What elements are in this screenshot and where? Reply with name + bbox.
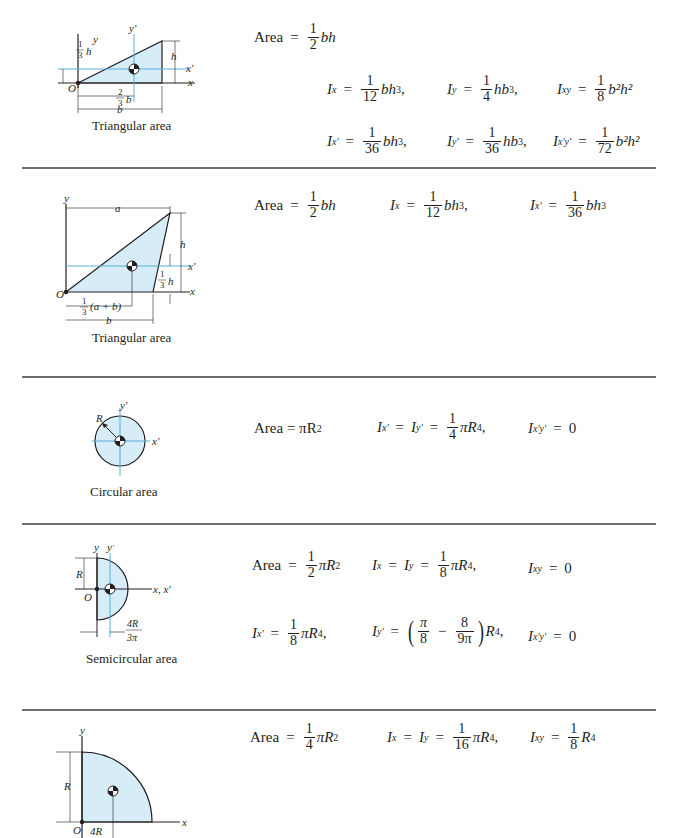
svg-text:O: O [84, 591, 92, 603]
svg-text:b: b [106, 314, 112, 326]
formula-ixp-2: Ix'= 136 bh3 [530, 190, 606, 220]
caption-triangular-area: Triangular area [92, 118, 171, 134]
formula-ix-iy-quarter: Ix= Iy= 116 πR4, [387, 722, 498, 752]
svg-text:1: 1 [82, 296, 87, 306]
svg-text:3: 3 [118, 98, 123, 108]
formula-ixpyp-circle: Ix'y'= 0 [528, 420, 576, 437]
formula-iyp-semicircle: Iy'= ( π8 − 89π ) R4, [372, 616, 504, 646]
svg-text:h: h [180, 238, 186, 250]
formula-ix: Ix= 112 bh3, [327, 74, 405, 104]
svg-text:3: 3 [82, 307, 87, 317]
formula-area-triangle: Area= 12 bh [254, 22, 336, 52]
formula-ixp: Ix'= 136 bh3, [327, 126, 407, 156]
triangle-figure-1: y y' x x' O h b 1 3 h 2 3 b [20, 20, 200, 130]
svg-text:y: y [63, 192, 69, 204]
svg-text:y: y [93, 545, 99, 553]
svg-text:h: h [171, 50, 177, 62]
formula-ixp-iyp-circle: Ix'= Iy'= 14 πR4, [377, 412, 486, 442]
svg-text:O: O [56, 288, 64, 300]
svg-text:y': y' [106, 545, 115, 553]
svg-text:h: h [86, 45, 92, 57]
svg-text:h: h [168, 275, 174, 287]
svg-text:y': y' [128, 22, 137, 34]
formula-ix-iy-semicircle: Ix= Iy= 18 πR4, [372, 550, 476, 580]
circle-figure: y' x' R [84, 400, 164, 480]
formula-area-triangle-2: Area= 12 bh [254, 190, 336, 220]
caption-circular-area: Circular area [90, 484, 157, 500]
svg-text:O: O [68, 82, 76, 94]
svg-text:3: 3 [160, 280, 165, 290]
svg-text:x': x' [151, 435, 160, 447]
svg-text:x: x [189, 285, 195, 297]
svg-text:R: R [63, 780, 71, 792]
caption-semicircular-area: Semicircular area [86, 651, 177, 667]
svg-text:x': x' [187, 260, 196, 272]
formula-ixpyp-semicircle: Ix'y'= 0 [528, 628, 576, 645]
semicircle-figure: y y' x, x' O R 4R 3π [70, 545, 190, 645]
divider [22, 709, 656, 711]
svg-text:y: y [92, 33, 98, 45]
svg-text:x: x [187, 76, 193, 88]
svg-text:y': y' [119, 400, 128, 411]
svg-text:3: 3 [78, 50, 83, 60]
divider [22, 167, 656, 169]
caption-triangular-area-2: Triangular area [92, 330, 171, 346]
divider [22, 376, 656, 378]
svg-text:(a + b): (a + b) [90, 300, 122, 313]
formula-iyp: Iy'= 136 hb3, [447, 126, 527, 156]
svg-text:a: a [115, 202, 121, 214]
svg-text:1: 1 [160, 269, 165, 279]
svg-text:x': x' [185, 62, 194, 74]
formula-ixy: Ixy= 18 b²h² [557, 74, 632, 104]
svg-text:3π: 3π [126, 632, 138, 643]
svg-text:4R: 4R [127, 618, 138, 629]
svg-text:x, x': x, x' [152, 583, 171, 595]
triangle-figure-2: y a h x' x O 1 3 h 1 3 (a + b) b [40, 190, 200, 330]
svg-text:2: 2 [118, 87, 123, 97]
quarter-circle-figure: y x O R 4R [40, 722, 200, 838]
formula-area-semicircle: Area= 12 πR2 [252, 550, 340, 580]
formula-area-quarter: Area= 14 πR2 [250, 722, 338, 752]
svg-text:b: b [126, 93, 132, 105]
formula-ixpyp: Ix'y'= 172 b²h² [553, 126, 640, 156]
formula-area-circle: Area = πR2 [254, 420, 322, 437]
formula-iy: Iy= 14 hb3, [447, 74, 518, 104]
svg-text:R: R [75, 568, 83, 580]
svg-text:y: y [79, 724, 85, 736]
formula-ixy-quarter: Ixy= 18 R4 [530, 722, 596, 752]
svg-text:4R: 4R [90, 825, 103, 837]
formula-ixp-semicircle: Ix'= 18 πR4, [252, 618, 326, 648]
svg-text:R: R [95, 412, 103, 424]
formula-ix-2: Ix= 112 bh3, [390, 190, 468, 220]
svg-text:O: O [73, 824, 81, 836]
svg-text:1: 1 [78, 39, 83, 49]
divider [22, 523, 656, 525]
svg-text:x: x [181, 816, 187, 828]
formula-ixy-semicircle: Ixy= 0 [528, 560, 572, 577]
